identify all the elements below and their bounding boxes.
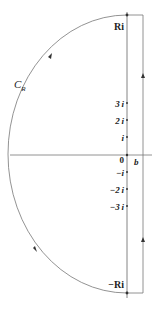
tick-neg-2i <box>126 188 128 190</box>
dot-ri <box>126 14 129 17</box>
contour-diagram: Ri −Ri CR 3 i 2 i i 0 b −i −2 i −3 i <box>0 0 155 315</box>
line-arrow-lower-icon <box>141 237 145 242</box>
label-2i: 2 i <box>114 116 124 126</box>
arc-arrow-lower-icon <box>33 246 37 252</box>
label-ri: Ri <box>114 21 124 32</box>
arc-cr <box>8 15 127 293</box>
tick-2i <box>126 119 128 121</box>
tick-neg-i <box>126 171 128 173</box>
label-neg-ri: −Ri <box>108 279 124 290</box>
label-neg-3i: −3 i <box>110 202 125 212</box>
arc-arrow-upper-icon <box>48 53 52 59</box>
label-origin: 0 <box>120 155 125 165</box>
dot-neg-ri <box>126 292 129 295</box>
label-cr: CR <box>14 78 26 93</box>
tick-3i <box>126 102 128 104</box>
label-3i: 3 i <box>114 99 124 109</box>
tick-i <box>126 136 128 138</box>
tick-0 <box>126 154 128 156</box>
label-neg-i: −i <box>116 168 124 178</box>
tick-neg-3i <box>126 205 128 207</box>
label-i: i <box>121 133 124 143</box>
label-neg-2i: −2 i <box>110 185 125 195</box>
line-arrow-upper-icon <box>141 73 145 78</box>
line-b <box>127 15 143 293</box>
label-b: b <box>134 157 139 167</box>
